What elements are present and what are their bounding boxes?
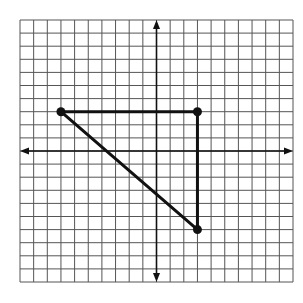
- vertex-point-2: [193, 107, 202, 116]
- vertex-point-3: [193, 225, 202, 234]
- coordinate-plane: [0, 0, 303, 303]
- vertex-point-1: [56, 107, 65, 116]
